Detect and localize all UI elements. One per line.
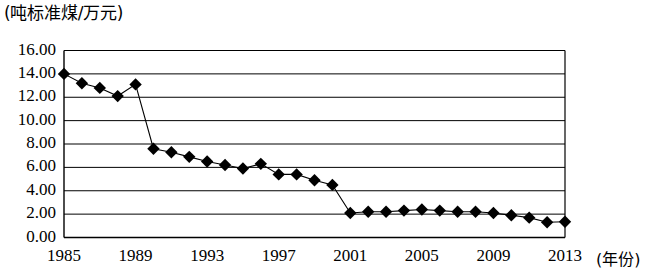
data-point-marker: [487, 207, 499, 219]
data-point-marker: [380, 206, 392, 218]
data-point-marker: [344, 207, 356, 219]
chart-figure: (吨标准煤/万元) 16.0014.0012.0010.008.006.004.…: [0, 0, 657, 274]
data-point-marker: [362, 206, 374, 218]
data-point-marker: [290, 168, 302, 180]
data-point-marker: [273, 168, 285, 180]
gridlines: [64, 51, 565, 215]
data-point-marker: [255, 158, 267, 170]
data-point-marker: [237, 162, 249, 174]
data-point-marker: [505, 209, 517, 221]
data-point-marker: [523, 211, 535, 223]
data-point-marker: [165, 146, 177, 158]
data-point-marker: [94, 82, 106, 94]
data-markers: [58, 68, 571, 229]
data-point-marker: [183, 151, 195, 163]
data-point-marker: [111, 90, 123, 102]
data-point-marker: [398, 204, 410, 216]
data-point-marker: [559, 216, 571, 228]
data-point-marker: [469, 206, 481, 218]
data-point-marker: [58, 68, 70, 80]
data-point-marker: [308, 174, 320, 186]
data-point-marker: [76, 77, 88, 89]
data-point-marker: [451, 206, 463, 218]
data-point-marker: [129, 78, 141, 90]
data-point-marker: [434, 204, 446, 216]
data-point-marker: [326, 179, 338, 191]
data-line: [64, 74, 565, 222]
data-point-marker: [541, 216, 553, 228]
data-point-marker: [201, 155, 213, 167]
plot-area: [0, 0, 657, 274]
data-point-marker: [219, 159, 231, 171]
